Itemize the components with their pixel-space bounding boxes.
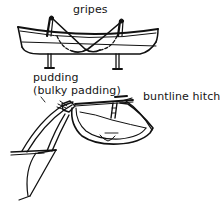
chock-left [45, 54, 54, 68]
diagram-canvas: gripes pudding (bulky padding) buntline … [0, 0, 222, 206]
pudding-leader-line [41, 97, 45, 102]
diagram-artwork [0, 0, 222, 206]
boat-on-chocks [18, 16, 158, 69]
label-pudding: pudding [33, 72, 79, 84]
boat-on-davit [11, 98, 153, 200]
label-pudding-note: (bulky padding) [33, 85, 121, 97]
label-gripes: gripes [73, 4, 108, 16]
chock-right [113, 54, 122, 69]
label-buntline-hitch: buntline hitch [143, 91, 220, 103]
